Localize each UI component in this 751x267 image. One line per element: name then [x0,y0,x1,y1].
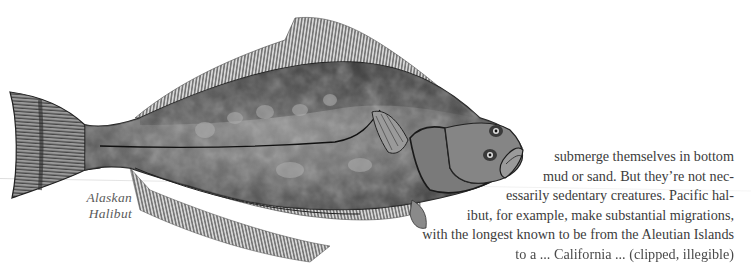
text-line: mud or sand. But they’re not nec- [314,167,734,187]
text-line: with the longest known to be from the Al… [314,225,734,245]
book-page: Alaskan Halibut submerge themselves in b… [0,0,751,267]
text-line: submerge themselves in bottom [314,147,734,167]
text-line: essarily sedentary creatures. Pacific ha… [314,186,734,206]
illustration-caption: Alaskan Halibut [72,190,132,222]
text-line: ibut, for example, make substantial migr… [314,206,734,226]
body-paragraph: submerge themselves in bottom mud or san… [314,147,734,265]
text-line-clipped: to a ... California ... (clipped, illegi… [314,245,734,265]
caption-line: Alaskan [72,190,132,206]
caption-line: Halibut [72,206,132,222]
